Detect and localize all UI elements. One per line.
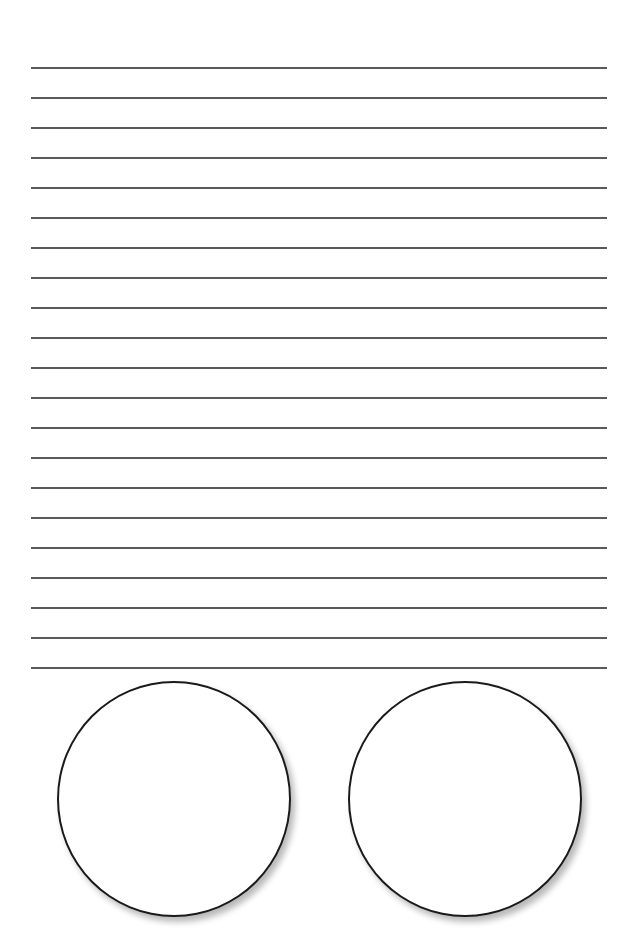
ruled-lines-area [31, 0, 607, 680]
rule-line [31, 187, 607, 189]
rule-line [31, 607, 607, 609]
rule-line [31, 577, 607, 579]
rule-line [31, 217, 607, 219]
rule-line [31, 397, 607, 399]
rule-line [31, 367, 607, 369]
rule-line [31, 547, 607, 549]
circle-left [57, 681, 291, 917]
rule-line [31, 127, 607, 129]
rule-line [31, 157, 607, 159]
rule-line [31, 637, 607, 639]
rule-line [31, 67, 607, 69]
rule-line [31, 277, 607, 279]
rule-line [31, 247, 607, 249]
rule-line [31, 487, 607, 489]
rule-line [31, 517, 607, 519]
rule-line [31, 457, 607, 459]
rule-line [31, 337, 607, 339]
rule-line [31, 427, 607, 429]
rule-line [31, 667, 607, 669]
circle-right [348, 681, 582, 917]
rule-line [31, 307, 607, 309]
rule-line [31, 97, 607, 99]
